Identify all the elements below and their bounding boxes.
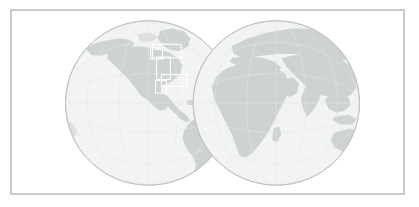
world-map-canvas[interactable] [12,11,403,193]
land-new-zealand-limb [69,156,81,166]
locator-map-widget [0,0,419,207]
map-frame-border [10,9,405,195]
globe-eastern-hemisphere[interactable] [193,21,368,193]
land-new-zealand [360,156,368,162]
